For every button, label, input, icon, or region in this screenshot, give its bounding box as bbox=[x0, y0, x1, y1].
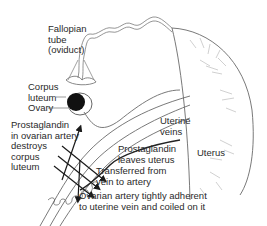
label-uterine-veins: Uterine veins bbox=[160, 116, 191, 137]
uterus-outline bbox=[172, 28, 253, 195]
uterus-inner-line bbox=[172, 28, 190, 200]
label-corpus-luteum: Corpus luteum bbox=[28, 82, 59, 103]
fallopian-tube bbox=[78, 17, 172, 78]
label-ovarian-artery: Ovarian artery tightly adherent to uteri… bbox=[79, 191, 207, 212]
label-prostaglandin-destroys: Prostaglandin in ovarian artery destroys… bbox=[11, 120, 79, 173]
label-prostaglandin-leaves: Prostaglandin leaves uterus bbox=[118, 144, 176, 165]
uterine-glands bbox=[190, 38, 236, 196]
label-transferred: Transferred from vein to artery bbox=[96, 166, 166, 187]
fimbriae bbox=[66, 76, 96, 85]
label-uterus: Uterus bbox=[197, 148, 225, 159]
label-ovary: Ovary bbox=[28, 103, 53, 114]
label-fallopian-tube: Fallopian tube (oviduct) bbox=[48, 24, 87, 56]
reproductive-diagram: Fallopian tube (oviduct) Corpus luteum O… bbox=[0, 0, 267, 226]
corpus-luteum-shape bbox=[67, 93, 85, 111]
